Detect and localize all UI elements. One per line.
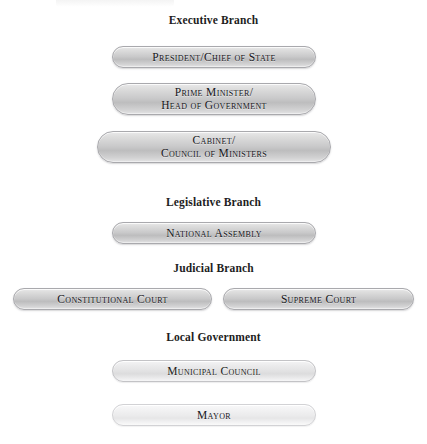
node-municipal-council[interactable]: Municipal Council — [112, 360, 316, 382]
node-president-chief-of-state[interactable]: President/Chief of State — [112, 46, 316, 68]
node-mayor-label: Mayor — [191, 409, 237, 422]
node-municipal-council-label: Municipal Council — [161, 365, 267, 378]
node-national-assembly-label: National Assembly — [160, 227, 268, 240]
node-constitutional-court[interactable]: Constitutional Court — [13, 288, 212, 310]
node-supreme-court-label: Supreme Court — [275, 293, 362, 306]
node-cabinet-council-of-ministers-label: Cabinet/Council of Ministers — [155, 134, 273, 160]
section-heading-judicial-branch: Judicial Branch — [0, 262, 427, 274]
node-mayor[interactable]: Mayor — [112, 404, 316, 426]
clipped-scan-artifact — [56, 0, 174, 7]
section-heading-local-government: Local Government — [0, 331, 427, 343]
node-cabinet-line-1: Cabinet/ — [193, 134, 236, 146]
government-structure-diagram: Executive Branch President/Chief of Stat… — [0, 0, 427, 444]
node-prime-minister-line-1: Prime Minister/ — [175, 86, 254, 98]
node-supreme-court[interactable]: Supreme Court — [223, 288, 414, 310]
node-cabinet-council-of-ministers[interactable]: Cabinet/Council of Ministers — [97, 131, 331, 163]
section-heading-executive-branch: Executive Branch — [0, 14, 427, 26]
node-cabinet-line-2: Council of Ministers — [161, 147, 267, 159]
node-prime-minister-head-of-government-label: Prime Minister/Head of Government — [155, 86, 273, 112]
section-heading-legislative-branch: Legislative Branch — [0, 196, 427, 208]
node-constitutional-court-label: Constitutional Court — [51, 293, 174, 306]
node-prime-minister-head-of-government[interactable]: Prime Minister/Head of Government — [112, 83, 316, 115]
node-president-chief-of-state-label: President/Chief of State — [146, 51, 281, 64]
node-national-assembly[interactable]: National Assembly — [112, 222, 316, 244]
node-prime-minister-line-2: Head of Government — [161, 99, 267, 111]
